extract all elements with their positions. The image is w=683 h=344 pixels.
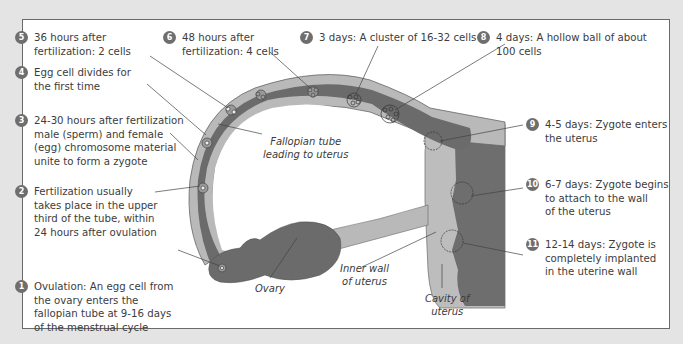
step-badge: 11 <box>526 238 539 251</box>
step-text: Egg cell divides for the first time <box>34 67 131 92</box>
uterus-cavity <box>452 138 505 306</box>
step-2: 2 Fertilization usually takes place in t… <box>34 185 158 239</box>
label-fallopian-tube: Fallopian tube leading to uterus <box>263 135 348 161</box>
step-11: 11 12-14 days: Zygote is completely impl… <box>545 238 656 279</box>
step-10: 10 6-7 days: Zygote begins to attach to … <box>545 178 669 219</box>
step-badge: 10 <box>526 178 539 191</box>
step-text: 48 hours after fertilization: 4 cells <box>182 32 279 57</box>
step-badge: 8 <box>477 31 490 44</box>
label-uterus-cavity: Cavity of uterus <box>425 292 469 318</box>
step-text: 4 days: A hollow ball of about 100 cells <box>496 32 647 57</box>
step-9: 9 4-5 days: Zygote enters the uterus <box>545 118 667 145</box>
step-badge: 9 <box>526 118 539 131</box>
step-text: 6-7 days: Zygote begins to attach to the… <box>545 179 669 217</box>
step-text: Ovulation: An egg cell from the ovary en… <box>34 281 173 333</box>
step-badge: 6 <box>163 31 176 44</box>
step-7: 7 3 days: A cluster of 16-32 cells <box>319 31 476 45</box>
step-badge: 5 <box>15 31 28 44</box>
step-5: 5 36 hours after fertilization: 2 cells <box>34 31 131 58</box>
label-inner-wall: Inner wall of uterus <box>340 262 389 288</box>
step-4: 4 Egg cell divides for the first time <box>34 66 131 93</box>
label-ovary: Ovary <box>255 282 285 295</box>
step-8: 8 4 days: A hollow ball of about 100 cel… <box>496 31 647 58</box>
step-badge: 3 <box>15 114 28 127</box>
step-text: Fertilization usually takes place in the… <box>34 186 158 238</box>
step-3: 3 24-30 hours after fertilization male (… <box>34 114 184 168</box>
step-badge: 1 <box>15 280 28 293</box>
step-badge: 2 <box>15 185 28 198</box>
step-text: 4-5 days: Zygote enters the uterus <box>545 119 667 144</box>
step-text: 3 days: A cluster of 16-32 cells <box>319 32 476 43</box>
step-text: 12-14 days: Zygote is completely implant… <box>545 239 656 277</box>
step-badge: 4 <box>15 66 28 79</box>
step-text: 24-30 hours after fertilization male (sp… <box>34 115 184 167</box>
step-1: 1 Ovulation: An egg cell from the ovary … <box>34 280 173 334</box>
step-6: 6 48 hours after fertilization: 4 cells <box>182 31 279 58</box>
step-text: 36 hours after fertilization: 2 cells <box>34 32 131 57</box>
step-badge: 7 <box>300 31 313 44</box>
